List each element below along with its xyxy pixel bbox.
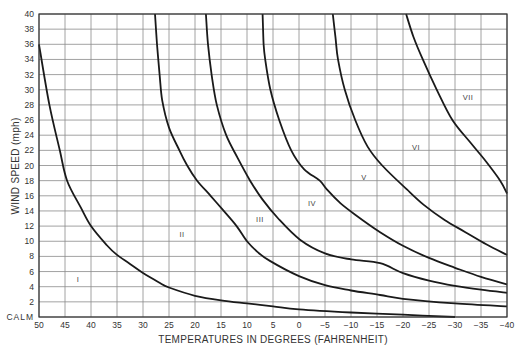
y-tick-label: 28 (25, 100, 35, 110)
x-tick-label: 30 (138, 320, 148, 330)
y-tick-label: 22 (25, 145, 35, 155)
x-tick-label: −20 (396, 320, 411, 330)
x-tick-label: 5 (271, 320, 276, 330)
grid-lines (39, 14, 507, 317)
zone-label: IV (308, 199, 316, 208)
y-tick-label: 24 (25, 130, 35, 140)
zone-boundary-curve (406, 14, 507, 194)
zone-label: II (179, 230, 184, 239)
y-tick-label: CALM (6, 312, 34, 322)
y-tick-label: 36 (25, 39, 35, 49)
y-tick-label: 34 (25, 54, 35, 64)
x-tick-label: 20 (190, 320, 200, 330)
y-tick-label: 26 (25, 115, 35, 125)
wind-chill-chart: 50454035302520151050−5−10−15−20−25−30−35… (0, 0, 523, 358)
x-tick-label: −15 (370, 320, 385, 330)
y-tick-label: 32 (25, 70, 35, 80)
x-tick-label: −5 (320, 320, 330, 330)
zone-boundary-curve (206, 14, 507, 293)
y-axis-title: WIND SPEED (mph) (10, 117, 21, 214)
zone-label: I (77, 275, 80, 284)
y-tick-label: 12 (25, 221, 35, 231)
y-tick-label: 8 (29, 251, 34, 261)
x-tick-label: −35 (474, 320, 489, 330)
y-tick-label: 18 (25, 176, 35, 186)
zone-label: VII (463, 93, 474, 102)
x-tick-label: 10 (242, 320, 252, 330)
x-axis-ticks: 50454035302520151050−5−10−15−20−25−30−35… (34, 320, 514, 330)
x-tick-label: 15 (216, 320, 226, 330)
y-tick-label: 38 (25, 24, 35, 34)
zone-label: VI (412, 143, 420, 152)
x-tick-label: −25 (422, 320, 437, 330)
x-tick-label: −10 (344, 320, 359, 330)
zone-boundary-curve (155, 14, 507, 306)
y-tick-label: 16 (25, 191, 35, 201)
x-tick-label: 40 (86, 320, 96, 330)
y-tick-label: 6 (29, 267, 34, 277)
x-tick-label: −30 (448, 320, 463, 330)
zone-label: III (256, 215, 264, 224)
y-tick-label: 4 (29, 282, 34, 292)
y-tick-label: 30 (25, 85, 35, 95)
y-tick-label: 14 (25, 206, 35, 216)
x-tick-label: 35 (112, 320, 122, 330)
y-tick-label: 20 (25, 161, 35, 171)
x-tick-label: 45 (60, 320, 70, 330)
zone-labels: IIIIIIIVVVIVII (77, 93, 474, 284)
x-axis-title: TEMPERATURES IN DEGREES (FAHRENHEIT) (158, 334, 388, 345)
zone-label: V (361, 173, 367, 182)
y-tick-label: 40 (25, 9, 35, 19)
x-tick-label: −40 (500, 320, 515, 330)
y-tick-label: 10 (25, 236, 35, 246)
chart-canvas: 50454035302520151050−5−10−15−20−25−30−35… (0, 0, 523, 358)
x-tick-label: 0 (297, 320, 302, 330)
x-tick-label: 50 (34, 320, 44, 330)
x-tick-label: 25 (164, 320, 174, 330)
y-tick-label: 2 (29, 297, 34, 307)
